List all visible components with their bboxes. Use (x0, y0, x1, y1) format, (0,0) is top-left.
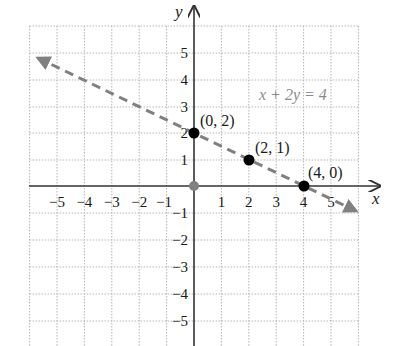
y-tick-labels: 5 4 3 2 1 −1 −2 −3 −4 −5 (172, 45, 188, 329)
point-2-1 (244, 155, 255, 166)
x-tick-labels: −5 −4 −3 −2 −1 1 2 3 4 5 (49, 194, 335, 210)
svg-text:4: 4 (181, 72, 189, 88)
svg-text:2: 2 (181, 125, 189, 141)
y-axis-label: y (173, 2, 183, 21)
svg-text:−2: −2 (131, 194, 147, 210)
point-label-2-1: (2, 1) (255, 139, 290, 157)
svg-text:−1: −1 (172, 205, 188, 221)
point-label-0-2: (0, 2) (200, 112, 235, 130)
svg-text:2: 2 (245, 194, 253, 210)
svg-text:−1: −1 (156, 194, 172, 210)
svg-text:−5: −5 (49, 194, 65, 210)
svg-text:−3: −3 (104, 194, 120, 210)
point-label-4-0: (4, 0) (308, 164, 343, 182)
svg-text:−5: −5 (172, 313, 188, 329)
point-0-2 (189, 128, 200, 139)
svg-text:−3: −3 (172, 259, 188, 275)
equation-label: x + 2y = 4 (258, 86, 327, 104)
svg-text:−4: −4 (172, 286, 188, 302)
x-axis-label: x (371, 189, 380, 208)
coordinate-plane: x y −5 −4 −3 −2 −1 1 2 3 4 5 5 4 3 2 1 −… (0, 0, 407, 346)
svg-text:−2: −2 (172, 232, 188, 248)
svg-text:3: 3 (272, 194, 280, 210)
svg-text:1: 1 (181, 152, 189, 168)
point-4-0 (299, 181, 310, 192)
svg-text:−4: −4 (76, 194, 92, 210)
svg-text:5: 5 (181, 45, 189, 61)
svg-text:1: 1 (218, 194, 226, 210)
svg-text:4: 4 (300, 194, 308, 210)
svg-text:3: 3 (181, 99, 189, 115)
origin-point (189, 181, 199, 191)
